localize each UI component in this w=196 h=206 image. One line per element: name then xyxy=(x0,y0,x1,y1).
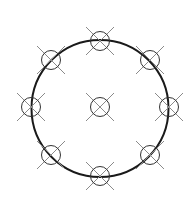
marker-center xyxy=(86,93,114,121)
marker-bottom xyxy=(86,162,114,190)
bolt-circle-diagram xyxy=(0,0,196,206)
marker-top xyxy=(86,27,114,55)
marker-left xyxy=(17,93,45,121)
marker-top-left xyxy=(37,46,65,74)
marker-bottom-right xyxy=(136,141,164,169)
marker-group xyxy=(17,27,183,190)
marker-bottom-left xyxy=(37,141,65,169)
marker-top-right xyxy=(136,46,164,74)
marker-right xyxy=(155,93,183,121)
